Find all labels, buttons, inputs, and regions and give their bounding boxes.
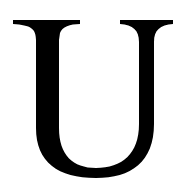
letter-u-glyph (0, 0, 182, 191)
